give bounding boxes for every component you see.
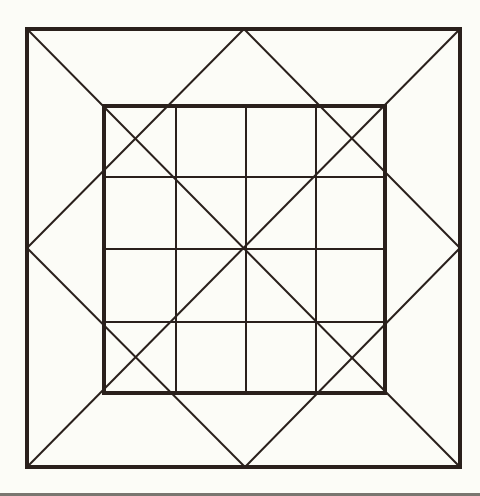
geometric-figure <box>0 0 480 496</box>
diagram-canvas <box>0 0 480 496</box>
